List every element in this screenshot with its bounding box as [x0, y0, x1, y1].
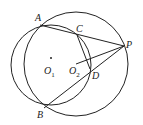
label-B: B — [37, 110, 43, 120]
label-A: A — [35, 13, 41, 23]
segment-O2P — [76, 46, 124, 64]
segment-BP — [44, 46, 124, 108]
label-P: P — [126, 40, 132, 50]
label-O2: O2 — [69, 66, 80, 79]
segment-CD — [77, 35, 90, 69]
label-O2-subscript: 2 — [76, 71, 80, 79]
geometry-diagram: A C P O1 O2 D B — [0, 0, 143, 125]
diagram-canvas — [0, 0, 143, 125]
label-O1: O1 — [44, 66, 55, 79]
point-O1 — [50, 57, 52, 59]
label-C: C — [76, 24, 83, 34]
label-D: D — [92, 71, 99, 81]
label-O1-subscript: 1 — [51, 71, 55, 79]
